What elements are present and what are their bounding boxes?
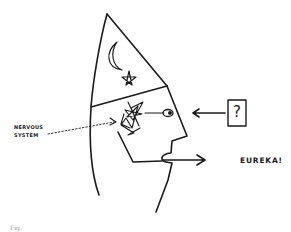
input-arrow [193,109,225,117]
jaw-line [118,132,162,162]
hat-right-edge [107,14,167,86]
star-icon [122,71,136,85]
face-profile [156,86,187,212]
output-arrow [163,155,205,165]
nervous-label-line2: SYSTEM [14,133,38,138]
moon-icon [109,42,122,70]
nervous-label-line1: NERVOUS [14,125,43,130]
diagram-canvas [0,0,291,232]
eureka-label: EUREKA! [240,157,283,165]
figure-caption: Fig. [10,224,22,231]
nervous-system-pointer [48,122,114,134]
nervous-system-scribble-icon [121,102,164,135]
question-mark: ? [233,105,241,120]
